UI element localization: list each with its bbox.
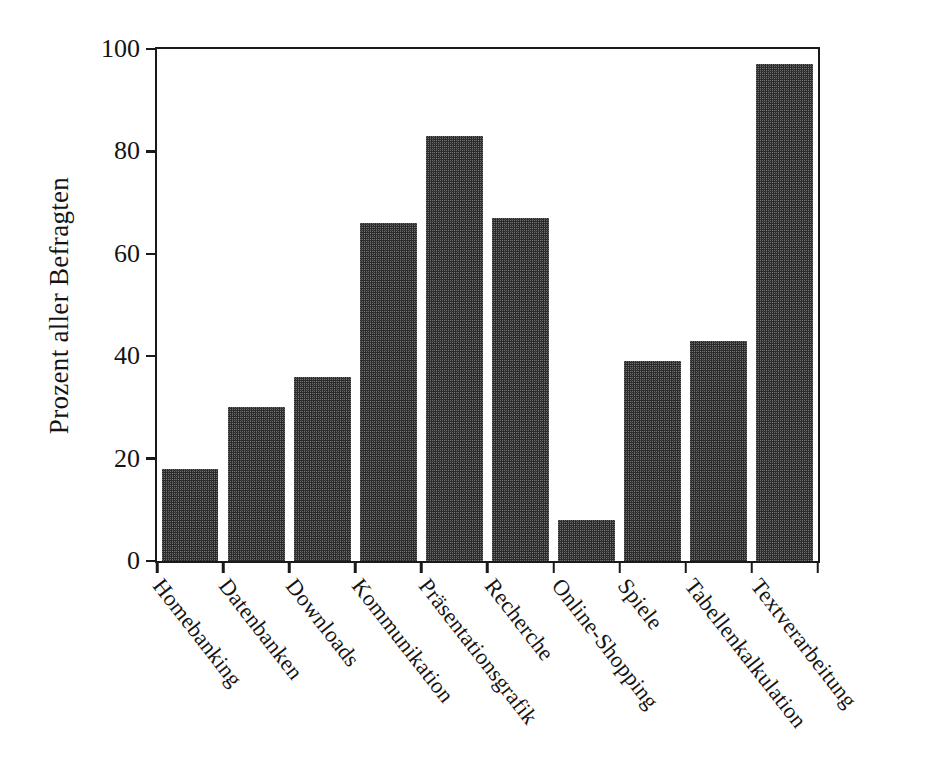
bar[interactable] bbox=[162, 469, 219, 561]
y-tick-label: 80 bbox=[114, 138, 146, 164]
bar-slot bbox=[620, 49, 686, 561]
bar-slot bbox=[157, 49, 223, 561]
bar-slot bbox=[223, 49, 289, 561]
y-tick-mark-icon bbox=[146, 355, 157, 358]
bar-chart-figure: Prozent aller Befragten 0 20 40 60 80 10… bbox=[0, 0, 937, 762]
bar-slot bbox=[686, 49, 752, 561]
y-axis-title-container: Prozent aller Befragten bbox=[0, 0, 120, 610]
bar[interactable] bbox=[426, 136, 483, 561]
y-tick-mark-icon bbox=[146, 253, 157, 256]
y-tick-label: 60 bbox=[114, 241, 146, 267]
bar-slot bbox=[421, 49, 487, 561]
x-tick-mark-icon bbox=[817, 561, 820, 573]
x-tick-mark-icon bbox=[552, 561, 555, 573]
bar[interactable] bbox=[756, 64, 813, 561]
x-axis-label: Spiele bbox=[613, 575, 666, 634]
bar-slot bbox=[752, 49, 818, 561]
y-axis-title: Prozent aller Befragten bbox=[45, 176, 76, 433]
bar[interactable] bbox=[360, 223, 417, 561]
y-tick-mark-icon bbox=[146, 150, 157, 153]
x-axis-labels-container: HomebankingDatenbankenDownloadsKommunika… bbox=[155, 575, 820, 760]
bar[interactable] bbox=[558, 520, 615, 561]
x-axis-label: Präsentationsgrafik bbox=[414, 575, 541, 729]
bar-slot bbox=[355, 49, 421, 561]
x-tick-mark-icon bbox=[288, 561, 291, 573]
bar-slot bbox=[554, 49, 620, 561]
bars-container bbox=[157, 49, 818, 561]
x-tick-mark-icon bbox=[354, 561, 357, 573]
x-tick-mark-icon bbox=[486, 561, 489, 573]
y-tick-label: 0 bbox=[127, 548, 146, 574]
bar[interactable] bbox=[690, 341, 747, 561]
y-tick-label: 20 bbox=[114, 446, 146, 472]
x-tick-mark-icon bbox=[420, 561, 423, 573]
y-tick-mark-icon bbox=[146, 48, 157, 51]
bar[interactable] bbox=[492, 218, 549, 561]
bar[interactable] bbox=[294, 377, 351, 561]
bar[interactable] bbox=[624, 361, 681, 561]
bar[interactable] bbox=[228, 407, 285, 561]
y-tick-mark-icon bbox=[146, 457, 157, 460]
bar-slot bbox=[487, 49, 553, 561]
x-tick-mark-icon bbox=[222, 561, 225, 573]
x-tick-mark-icon bbox=[751, 561, 754, 573]
x-tick-mark-icon bbox=[618, 561, 621, 573]
x-axis-label: Tabellenkalkulation bbox=[680, 575, 810, 732]
x-tick-mark-icon bbox=[156, 561, 159, 573]
plot-area: 0 20 40 60 80 100 bbox=[155, 47, 820, 563]
y-tick-label: 40 bbox=[114, 343, 146, 369]
bar-slot bbox=[289, 49, 355, 561]
y-tick-label: 100 bbox=[101, 36, 146, 62]
x-tick-mark-icon bbox=[685, 561, 688, 573]
